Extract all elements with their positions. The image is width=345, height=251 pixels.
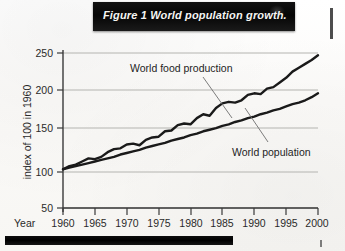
page-footer-bar — [5, 236, 233, 245]
x-tick-label-1970: 1970 — [115, 217, 139, 229]
y-tick-label-150: 150 — [35, 122, 53, 134]
annotation-world-population: World population — [232, 146, 311, 158]
y-axis-label: index of 100 in 1960 — [21, 85, 33, 180]
y-tick-label-250: 250 — [35, 47, 53, 59]
x-tick-label-1985: 1985 — [210, 217, 234, 229]
x-tick-label-1965: 1965 — [83, 217, 107, 229]
x-tick-label-1980: 1980 — [179, 217, 203, 229]
y-tick-label-100: 100 — [35, 166, 53, 178]
x-tick-label-1960: 1960 — [51, 217, 75, 229]
figure-screenshot: Figure 1 World population growth. — [0, 0, 345, 251]
y-tick-label-200: 200 — [35, 84, 53, 96]
x-tick-marks — [63, 208, 318, 215]
leader-line-food-production — [203, 77, 232, 118]
x-axis-label: Year — [14, 217, 36, 229]
y-tick-label-50: 50 — [41, 202, 53, 214]
y-tick-marks — [57, 53, 63, 208]
x-tick-label-2000: 2000 — [305, 217, 329, 229]
x-tick-label-1975: 1975 — [147, 217, 171, 229]
footer-scan-artifact — [320, 240, 322, 247]
population-growth-chart: 250 200 150 100 50 1960 1965 1970 1975 1… — [0, 0, 345, 251]
gridlines — [63, 53, 318, 208]
x-tick-label-1990: 1990 — [242, 217, 266, 229]
x-tick-labels: 1960 1965 1970 1975 1980 1985 1990 1995 … — [51, 217, 329, 229]
y-tick-labels: 250 200 150 100 50 — [35, 47, 53, 214]
x-tick-label-1995: 1995 — [274, 217, 298, 229]
annotation-world-food-production: World food production — [130, 62, 233, 74]
